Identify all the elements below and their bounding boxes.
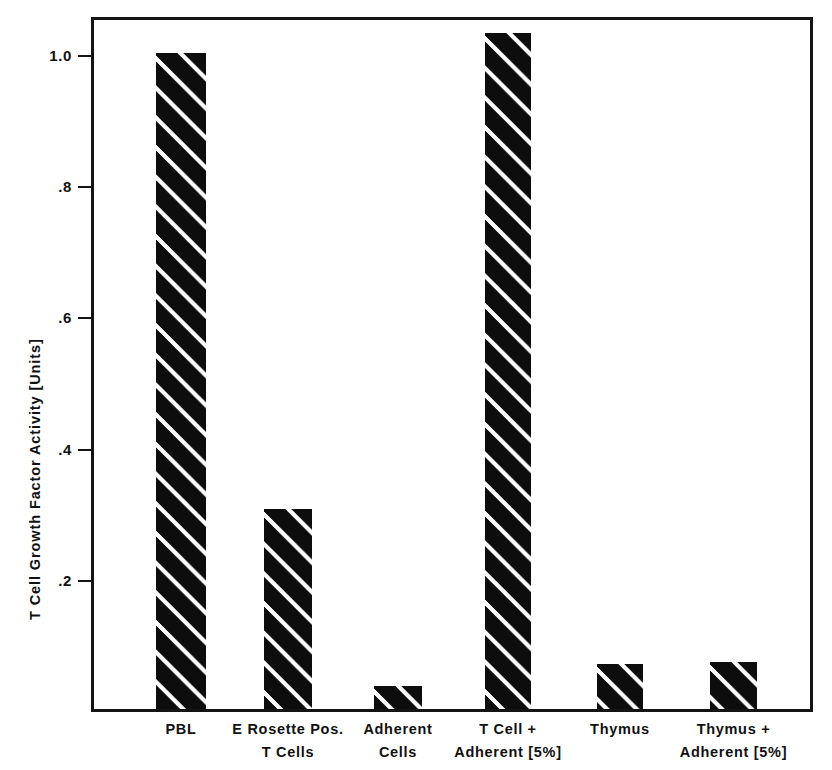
bar bbox=[156, 53, 206, 709]
y-tick-label-text: 1.0 bbox=[30, 47, 72, 64]
y-tick-label: .6 bbox=[22, 309, 72, 327]
y-tick-label-text: .8 bbox=[30, 178, 72, 195]
y-tick-label-text: .2 bbox=[30, 572, 72, 589]
plot-area bbox=[91, 17, 813, 712]
y-tick-mark bbox=[78, 449, 92, 451]
bar bbox=[485, 33, 531, 709]
y-tick-label: .8 bbox=[22, 178, 72, 196]
y-tick-label: 1.0 bbox=[22, 47, 72, 65]
bar-chart-figure: T Cell Growth Factor Activity [Units] .2… bbox=[0, 0, 832, 770]
bar bbox=[597, 664, 643, 709]
y-axis-title: T Cell Growth Factor Activity [Units] bbox=[22, 60, 48, 620]
y-tick-mark bbox=[78, 186, 92, 188]
y-tick-label: .4 bbox=[22, 441, 72, 459]
x-category-label: Thymus + Adherent [5%] bbox=[639, 718, 829, 764]
y-tick-label-text: .6 bbox=[30, 309, 72, 326]
bar bbox=[264, 509, 312, 709]
y-tick-label-text: .4 bbox=[30, 441, 72, 458]
bar bbox=[374, 686, 422, 709]
y-tick-mark bbox=[78, 580, 92, 582]
bar bbox=[710, 662, 757, 709]
y-tick-label: .2 bbox=[22, 572, 72, 590]
y-tick-mark bbox=[78, 317, 92, 319]
y-tick-mark bbox=[78, 55, 92, 57]
